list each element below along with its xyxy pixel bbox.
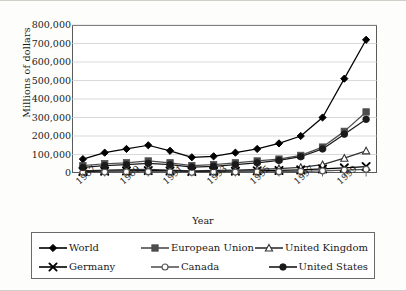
legend-item-european-union: European Union — [140, 241, 254, 255]
y-tick-label: 400,000 — [9, 94, 71, 104]
legend-item-germany: Germany — [38, 260, 150, 274]
filled-square-icon — [140, 241, 170, 255]
legend-label: World — [69, 242, 99, 253]
legend-label: Germany — [69, 261, 115, 272]
y-tick-label: 300,000 — [9, 113, 71, 123]
y-tick-label: 500,000 — [9, 76, 71, 86]
legend-label: European Union — [171, 242, 254, 253]
legend-item-united-kingdom: United Kingdom — [254, 241, 368, 255]
legend-item-canada: Canada — [150, 260, 268, 274]
open-triangle-icon — [254, 241, 284, 255]
legend-label: United States — [299, 261, 368, 272]
x-axis-title: Year — [0, 215, 406, 226]
chart-canvas — [72, 25, 377, 173]
filled-circle-icon — [268, 260, 298, 274]
legend-item-united-states: United States — [268, 260, 368, 274]
cross-x-icon — [38, 260, 68, 274]
y-tick-label: 100,000 — [9, 150, 71, 160]
y-tick-label: 200,000 — [9, 131, 71, 141]
chart-legend: World European Union United Kingdom Germ… — [31, 232, 375, 279]
filled-diamond-icon — [38, 241, 68, 255]
plot-area: 800,000700,000600,000500,000400,000300,0… — [72, 25, 377, 173]
open-circle-icon — [150, 260, 180, 274]
y-tick-label: 700,000 — [9, 39, 71, 49]
legend-label: United Kingdom — [285, 242, 368, 253]
legend-label: Canada — [181, 261, 219, 272]
y-tick-label: 0 — [9, 168, 71, 178]
chart-figure: Millions of dollars 800,000700,000600,00… — [0, 0, 406, 291]
legend-item-world: World — [38, 241, 140, 255]
legend-row: World European Union United Kingdom — [38, 238, 368, 257]
legend-row: Germany Canada United States — [38, 257, 368, 276]
y-tick-label: 600,000 — [9, 57, 71, 67]
y-tick-label: 800,000 — [9, 20, 71, 30]
